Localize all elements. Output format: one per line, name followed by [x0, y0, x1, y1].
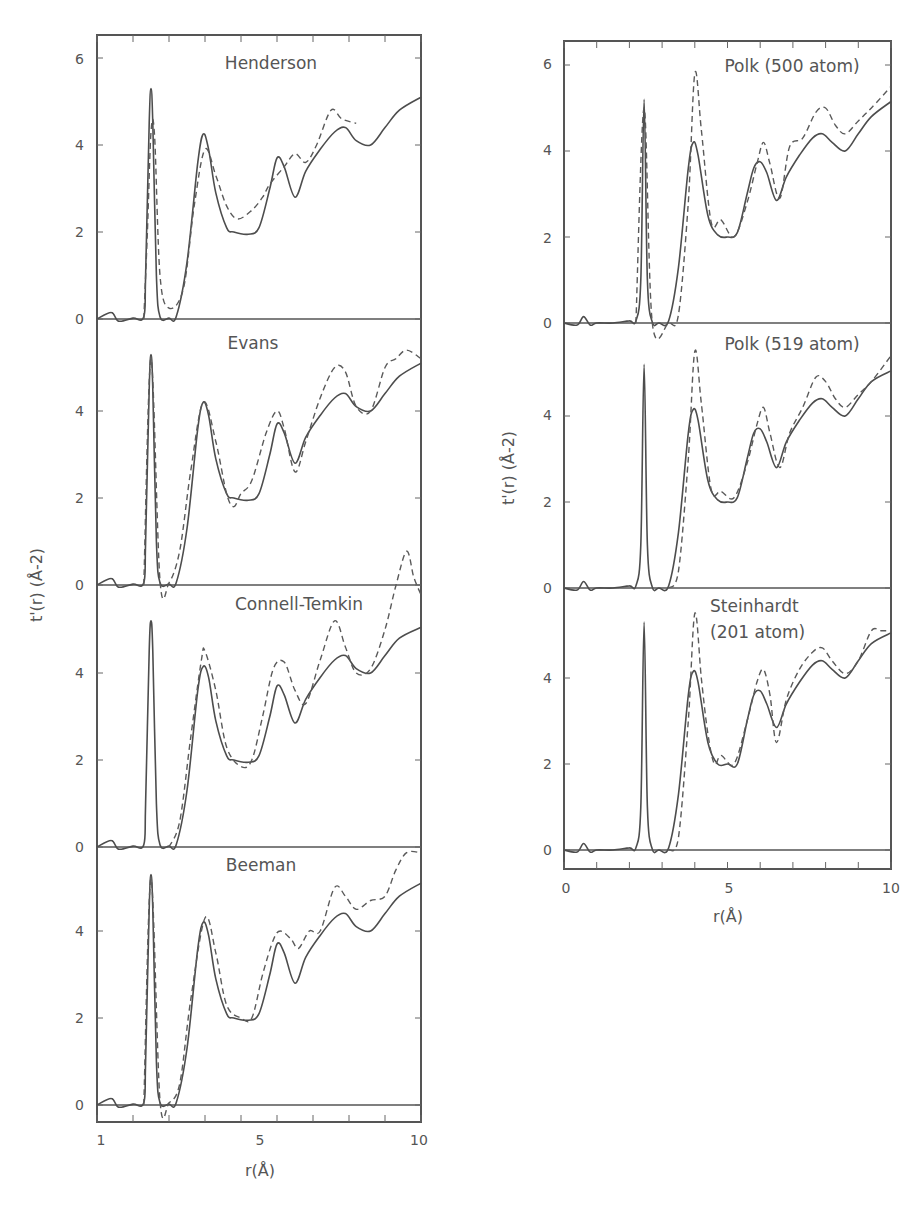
experiment-curve-steinhardt-201-atom [564, 622, 891, 853]
figure [0, 0, 924, 1208]
model-curve-henderson [144, 109, 356, 319]
experiment-curve-evans [97, 355, 421, 588]
model-curve-evans [144, 350, 421, 599]
model-curve-steinhardt-201-atom [669, 613, 891, 851]
model-curve-connell-temkin [169, 551, 421, 847]
model-curve-polk-519-atom [669, 350, 891, 588]
plot-frame-left [97, 35, 421, 1122]
experiment-curve-beeman [97, 875, 421, 1108]
plot-frame-right [564, 41, 891, 869]
experiment-curve-polk-519-atom [564, 364, 891, 590]
model-curve-beeman [144, 851, 421, 1118]
